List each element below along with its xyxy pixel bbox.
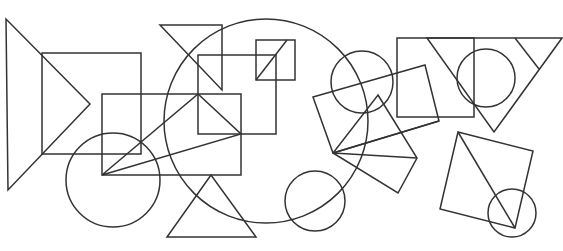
geometric-shapes-diagram (0, 0, 563, 251)
large-circle (164, 19, 368, 223)
left-circle (66, 133, 160, 227)
tilted-rectangle-diagonal (333, 121, 439, 153)
bottom-circle (285, 171, 345, 231)
bottom-right-square-diagonal (458, 132, 515, 228)
right-circle (457, 49, 515, 107)
right-triangle-inner-line (515, 38, 539, 69)
diagram-svg (0, 0, 563, 251)
bottom-right-circle (488, 189, 536, 237)
right-triangle (427, 38, 562, 132)
left-triangle (6, 19, 90, 190)
tilted-square-diagonal (333, 153, 417, 158)
bottom-triangle (167, 175, 256, 237)
small-square-diagonal (256, 40, 287, 80)
